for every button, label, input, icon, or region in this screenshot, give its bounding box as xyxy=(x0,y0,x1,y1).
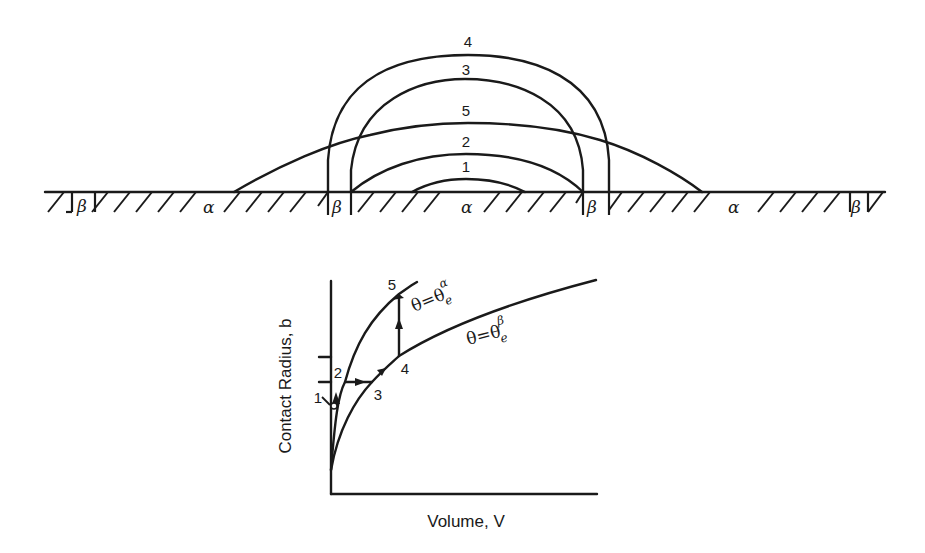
svg-text:e: e xyxy=(499,330,509,345)
top-diagram: β α β α β α β 4 3 5 2 1 xyxy=(45,33,885,217)
profile-label-5: 5 xyxy=(462,102,470,119)
region-label-alpha-3: α xyxy=(728,197,740,217)
pointer-1 xyxy=(322,397,330,405)
region-label-alpha-2: α xyxy=(461,197,473,217)
label-theta-alpha: θ=θ e α xyxy=(405,275,456,320)
arrow-head-up xyxy=(395,318,403,329)
profile-label-4: 4 xyxy=(464,33,472,50)
svg-text:e: e xyxy=(443,292,455,308)
point-label-3: 3 xyxy=(374,386,382,403)
region-label-alpha-1: α xyxy=(203,197,215,217)
profile-1 xyxy=(412,179,525,192)
profile-label-2: 2 xyxy=(462,133,470,150)
bottom-chart: 1 2 3 4 5 θ=θ e α θ=θ e β Volume, V Cont… xyxy=(276,275,597,531)
point-label-5: 5 xyxy=(388,276,396,293)
region-label-beta-3: β xyxy=(586,197,597,217)
arrow-head-right xyxy=(355,378,366,386)
label-theta-beta: θ=θ e β xyxy=(462,313,510,354)
region-label-beta-2: β xyxy=(331,197,342,217)
profile-label-3: 3 xyxy=(462,61,470,78)
region-label-beta-4: β xyxy=(850,197,861,217)
region-label-beta-1: β xyxy=(76,196,87,216)
point-label-1: 1 xyxy=(314,389,322,406)
point-label-4: 4 xyxy=(401,360,409,377)
curve-theta-beta xyxy=(331,280,596,470)
point-label-2: 2 xyxy=(334,364,342,381)
y-axis-label: Contact Radius, b xyxy=(276,318,295,453)
profile-label-1: 1 xyxy=(462,158,470,175)
x-axis-label: Volume, V xyxy=(427,512,505,531)
point-1-marker xyxy=(331,403,337,409)
svg-text:θ=θ: θ=θ xyxy=(464,321,503,349)
figure-canvas: β α β α β α β 4 3 5 2 1 xyxy=(0,0,925,553)
